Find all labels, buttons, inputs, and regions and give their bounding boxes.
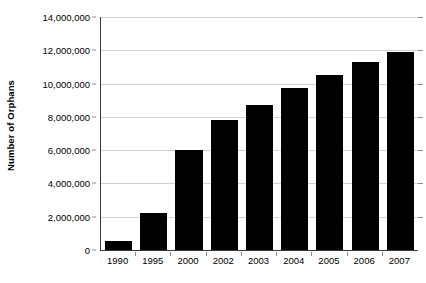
- y-tick-mark: [92, 116, 96, 117]
- y-tick-mark: [92, 83, 96, 84]
- right-axis-tick: [418, 217, 423, 218]
- x-tick-label: 2007: [389, 255, 410, 266]
- y-axis-title: Number of Orphans: [0, 0, 20, 250]
- y-tick-label: 8,000,000: [48, 111, 90, 122]
- x-tick-mark: [276, 252, 277, 256]
- y-tick-label: 6,000,000: [48, 145, 90, 156]
- x-tick-label: 2000: [177, 255, 198, 266]
- bar: [246, 105, 273, 250]
- bar: [140, 213, 167, 250]
- x-tick-label: 2003: [248, 255, 269, 266]
- y-tick-mark: [92, 150, 96, 151]
- right-axis-tick: [418, 84, 423, 85]
- right-axis-tick: [418, 183, 423, 184]
- y-axis-title-label: Number of Orphans: [5, 80, 16, 171]
- bar: [281, 88, 308, 250]
- x-tick-mark: [206, 252, 207, 256]
- x-tick-label: 2005: [318, 255, 339, 266]
- x-axis-tick-labels: 199019952000200220032004200520062007: [100, 252, 417, 272]
- y-tick-mark: [92, 216, 96, 217]
- x-tick-label: 2002: [213, 255, 234, 266]
- plot-area: [100, 17, 418, 251]
- y-tick-mark: [92, 250, 96, 251]
- y-axis-tick-labels: 02,000,0004,000,0006,000,0008,000,00010,…: [20, 17, 96, 250]
- right-axis-tick: [418, 117, 423, 118]
- x-tick-label: 2006: [354, 255, 375, 266]
- x-tick-mark: [311, 252, 312, 256]
- right-axis-tick: [418, 150, 423, 151]
- y-tick-mark: [92, 183, 96, 184]
- bar: [352, 62, 379, 250]
- x-tick-label: 2004: [283, 255, 304, 266]
- y-tick-label: 12,000,000: [42, 45, 90, 56]
- x-tick-mark: [135, 252, 136, 256]
- y-tick-label: 0: [85, 245, 90, 256]
- x-tick-mark: [241, 252, 242, 256]
- x-tick-mark: [382, 252, 383, 256]
- x-tick-mark: [347, 252, 348, 256]
- y-tick-mark: [92, 17, 96, 18]
- bar: [211, 120, 238, 250]
- right-axis-tick: [418, 50, 423, 51]
- x-tick-mark: [170, 252, 171, 256]
- right-axis-tick: [418, 17, 423, 18]
- bar: [387, 52, 414, 250]
- y-tick-label: 2,000,000: [48, 211, 90, 222]
- x-tick-label: 1995: [142, 255, 163, 266]
- bar: [175, 150, 202, 250]
- y-tick-mark: [92, 50, 96, 51]
- x-tick-label: 1990: [107, 255, 128, 266]
- bar-chart: Number of Orphans 02,000,0004,000,0006,0…: [0, 0, 426, 283]
- bar: [105, 241, 132, 250]
- y-tick-label: 4,000,000: [48, 178, 90, 189]
- y-tick-label: 10,000,000: [42, 78, 90, 89]
- bar: [316, 75, 343, 250]
- bars-layer: [101, 17, 418, 250]
- y-tick-label: 14,000,000: [42, 12, 90, 23]
